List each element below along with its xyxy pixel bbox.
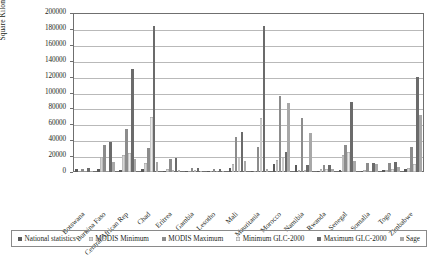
legend-label: Minimum GLC-2000	[243, 235, 305, 243]
y-axis-tick-label: 100000	[45, 89, 66, 96]
y-axis-tick-label: 180000	[45, 25, 66, 32]
y-axis-tick-label: 80000	[49, 105, 66, 112]
legend-swatch-icon	[400, 237, 404, 241]
y-axis-tick-label: 140000	[45, 57, 66, 64]
y-axis-tick-label: 120000	[45, 73, 66, 80]
legend-item: National statistics	[18, 235, 76, 243]
x-axis-labels: BotswanaBurkina FasoCentral African RepC…	[73, 172, 424, 220]
legend-item: MODIS Maximum	[162, 235, 223, 243]
legend-swatch-icon	[317, 237, 321, 241]
gridline	[74, 157, 423, 158]
legend-label: Sage	[406, 235, 420, 243]
legend-swatch-icon	[162, 237, 166, 241]
x-axis-tick-label: Togo	[377, 210, 393, 226]
gridline	[74, 109, 423, 110]
legend-label: Maximum GLC-2000	[324, 235, 387, 243]
chart-legend: National statisticsMODIS MinimumMODIS Ma…	[11, 230, 427, 247]
gridline	[74, 30, 423, 31]
legend-item: Sage	[400, 235, 420, 243]
legend-item: Minimum GLC-2000	[236, 235, 304, 243]
y-axis-tick-label: 40000	[49, 137, 66, 144]
legend-label: National statistics	[25, 235, 76, 243]
legend-label: MODIS Maximum	[168, 235, 223, 243]
gridline	[74, 141, 423, 142]
y-axis-tick-label: 20000	[49, 152, 66, 159]
x-axis-tick-label: Eritrea	[154, 210, 173, 229]
y-axis-labels: 0200004000060000800001000001200001400001…	[0, 0, 70, 172]
legend-item: MODIS Minimum	[89, 235, 149, 243]
legend-label: MODIS Minimum	[95, 235, 149, 243]
legend-item: Maximum GLC-2000	[317, 235, 386, 243]
x-axis-tick-label: Senegal	[327, 210, 349, 232]
x-axis-tick-label: Mali	[224, 210, 239, 225]
x-axis-tick-label: Gambia	[174, 210, 196, 232]
gridline	[74, 62, 423, 63]
legend-swatch-icon	[236, 237, 240, 241]
gridline	[74, 125, 423, 126]
gridline	[74, 46, 423, 47]
gridline	[74, 78, 423, 79]
legend-swatch-icon	[18, 237, 22, 241]
y-axis-tick-label: 160000	[45, 41, 66, 48]
gridline	[74, 94, 423, 95]
y-axis-tick-label: 0	[63, 168, 67, 175]
legend-swatch-icon	[89, 237, 93, 241]
plot-area	[73, 13, 424, 172]
y-axis-tick-label: 60000	[49, 121, 66, 128]
bar-chart: Square Kilometers 0200004000060000800001…	[0, 0, 438, 264]
y-axis-tick-label: 200000	[45, 9, 66, 16]
gridlines	[74, 14, 423, 171]
x-axis-tick-label: Chad	[135, 210, 151, 226]
